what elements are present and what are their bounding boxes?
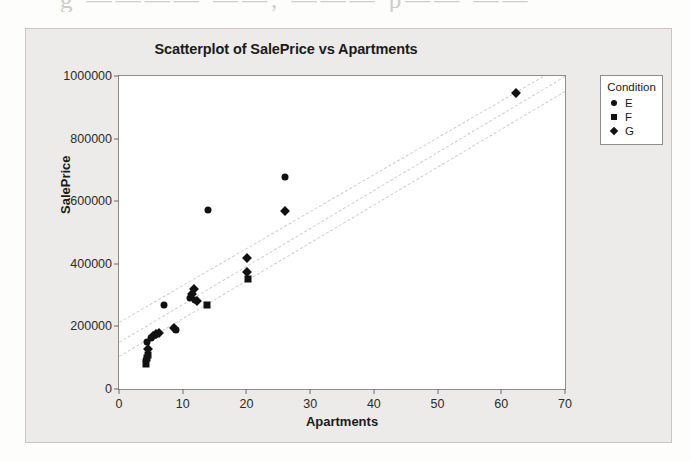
x-axis-tick-mark bbox=[373, 389, 374, 394]
y-axis-tick-label: 400000 bbox=[70, 257, 112, 271]
y-axis-tick-label: 0 bbox=[105, 382, 112, 396]
x-axis-label: Apartments bbox=[118, 414, 566, 429]
y-axis-tick-label: 600000 bbox=[70, 194, 112, 208]
chart-figure: Scatterplot of SalePrice vs Apartments S… bbox=[25, 28, 672, 443]
legend-title: Condition bbox=[607, 81, 656, 93]
x-axis-tick-mark bbox=[565, 389, 566, 394]
x-axis-tick-mark bbox=[437, 389, 438, 394]
data-point-e bbox=[205, 206, 212, 213]
x-axis-tick-mark bbox=[501, 389, 502, 394]
x-axis-tick-mark bbox=[310, 389, 311, 394]
x-axis-tick-mark bbox=[182, 389, 183, 394]
data-point-g bbox=[280, 206, 290, 216]
legend-item-label: G bbox=[625, 125, 634, 137]
x-axis-tick-label: 0 bbox=[116, 397, 123, 411]
legend-rows: EFG bbox=[607, 96, 656, 138]
legend: Condition EFG bbox=[600, 75, 663, 145]
legend-item-f: F bbox=[607, 110, 656, 124]
x-axis-tick-label: 60 bbox=[494, 397, 508, 411]
plot-area: 0200000400000600000800000100000001020304… bbox=[118, 75, 566, 390]
square-marker-icon bbox=[607, 114, 621, 120]
x-axis-tick-label: 40 bbox=[367, 397, 381, 411]
data-point-f bbox=[244, 275, 251, 282]
data-point-g bbox=[242, 253, 252, 263]
data-point-g bbox=[192, 296, 202, 306]
x-axis-tick-label: 10 bbox=[176, 397, 190, 411]
reference-line-fit-line bbox=[119, 76, 565, 343]
y-axis-tick-label: 200000 bbox=[70, 319, 112, 333]
y-axis-tick-mark bbox=[114, 138, 119, 139]
y-axis-tick-mark bbox=[114, 76, 119, 77]
legend-item-label: E bbox=[625, 97, 633, 109]
legend-item-label: F bbox=[625, 111, 632, 123]
y-axis-tick-mark bbox=[114, 201, 119, 202]
plot-inner bbox=[119, 76, 565, 389]
y-axis-tick-label: 1000000 bbox=[63, 69, 112, 83]
x-axis-tick-mark bbox=[246, 389, 247, 394]
y-axis-tick-label: 800000 bbox=[70, 132, 112, 146]
data-point-e bbox=[160, 302, 167, 309]
legend-item-e: E bbox=[607, 96, 656, 110]
x-axis-tick-mark bbox=[119, 389, 120, 394]
x-axis-tick-label: 50 bbox=[431, 397, 445, 411]
x-axis-tick-label: 30 bbox=[303, 397, 317, 411]
data-point-e bbox=[281, 173, 288, 180]
chart-title: Scatterplot of SalePrice vs Apartments bbox=[26, 41, 546, 57]
diamond-marker-icon bbox=[607, 128, 621, 134]
legend-item-g: G bbox=[607, 124, 656, 138]
x-axis-tick-label: 70 bbox=[558, 397, 572, 411]
scan-artifact-top-text: g ———— ——, ——— p—— —— bbox=[60, 0, 620, 12]
reference-line-upper-band bbox=[119, 76, 543, 323]
x-axis-tick-label: 20 bbox=[239, 397, 253, 411]
reference-line-lower-band bbox=[119, 91, 565, 357]
y-axis-tick-mark bbox=[114, 263, 119, 264]
circle-marker-icon bbox=[607, 100, 621, 106]
y-axis-tick-mark bbox=[114, 326, 119, 327]
data-point-f bbox=[203, 302, 210, 309]
